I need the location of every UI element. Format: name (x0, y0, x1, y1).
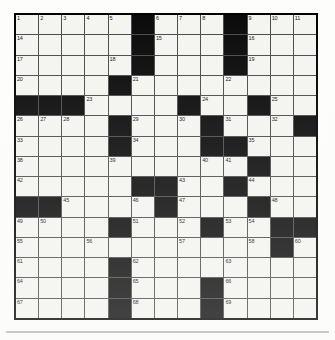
letter-square[interactable]: 24 (201, 96, 223, 115)
letter-square[interactable] (294, 278, 316, 297)
letter-square[interactable]: 19 (248, 56, 270, 75)
letter-square[interactable]: 66 (224, 278, 246, 297)
letter-square[interactable] (39, 258, 61, 277)
letter-square[interactable]: 40 (201, 157, 223, 176)
letter-square[interactable] (271, 157, 293, 176)
letter-square[interactable]: 33 (16, 137, 38, 156)
letter-square[interactable]: 18 (109, 56, 131, 75)
letter-square[interactable]: 10 (271, 15, 293, 34)
letter-square[interactable] (39, 177, 61, 196)
letter-square[interactable] (85, 137, 107, 156)
letter-square[interactable] (132, 157, 154, 176)
letter-square[interactable] (178, 35, 200, 54)
letter-square[interactable] (39, 35, 61, 54)
letter-square[interactable]: 5 (109, 15, 131, 34)
letter-square[interactable] (62, 157, 84, 176)
letter-square[interactable]: 39 (109, 157, 131, 176)
letter-square[interactable] (201, 258, 223, 277)
letter-square[interactable]: 4 (85, 15, 107, 34)
letter-square[interactable] (294, 299, 316, 318)
letter-square[interactable] (224, 197, 246, 216)
letter-square[interactable] (109, 96, 131, 115)
letter-square[interactable]: 45 (62, 197, 84, 216)
letter-square[interactable] (85, 35, 107, 54)
letter-square[interactable] (62, 76, 84, 95)
letter-square[interactable]: 6 (155, 15, 177, 34)
letter-square[interactable] (155, 137, 177, 156)
letter-square[interactable] (155, 238, 177, 257)
letter-square[interactable]: 27 (39, 116, 61, 135)
letter-square[interactable]: 69 (224, 299, 246, 318)
letter-square[interactable] (39, 299, 61, 318)
letter-square[interactable]: 22 (224, 76, 246, 95)
letter-square[interactable] (224, 238, 246, 257)
letter-square[interactable] (62, 299, 84, 318)
letter-square[interactable]: 9 (248, 15, 270, 34)
letter-square[interactable]: 44 (248, 177, 270, 196)
letter-square[interactable]: 35 (248, 137, 270, 156)
letter-square[interactable] (271, 56, 293, 75)
letter-square[interactable] (294, 157, 316, 176)
letter-square[interactable] (271, 177, 293, 196)
letter-square[interactable] (271, 278, 293, 297)
letter-square[interactable] (271, 137, 293, 156)
letter-square[interactable]: 21 (132, 76, 154, 95)
letter-square[interactable] (248, 299, 270, 318)
letter-square[interactable]: 62 (132, 258, 154, 277)
letter-square[interactable] (178, 56, 200, 75)
letter-square[interactable] (132, 96, 154, 115)
letter-square[interactable]: 46 (132, 197, 154, 216)
letter-square[interactable]: 51 (132, 218, 154, 237)
letter-square[interactable] (178, 299, 200, 318)
letter-square[interactable] (248, 258, 270, 277)
letter-square[interactable] (62, 278, 84, 297)
letter-square[interactable]: 53 (224, 218, 246, 237)
letter-square[interactable] (109, 197, 131, 216)
letter-square[interactable] (271, 76, 293, 95)
letter-square[interactable] (224, 96, 246, 115)
letter-square[interactable] (109, 35, 131, 54)
letter-square[interactable] (155, 116, 177, 135)
letter-square[interactable] (201, 76, 223, 95)
letter-square[interactable] (294, 56, 316, 75)
letter-square[interactable] (62, 238, 84, 257)
letter-square[interactable] (85, 177, 107, 196)
letter-square[interactable]: 60 (294, 238, 316, 257)
letter-square[interactable] (294, 96, 316, 115)
letter-square[interactable] (62, 56, 84, 75)
letter-square[interactable]: 17 (16, 56, 38, 75)
letter-square[interactable]: 11 (294, 15, 316, 34)
letter-square[interactable] (155, 258, 177, 277)
letter-square[interactable]: 16 (248, 35, 270, 54)
letter-square[interactable] (85, 157, 107, 176)
letter-square[interactable] (39, 238, 61, 257)
letter-square[interactable]: 67 (16, 299, 38, 318)
letter-square[interactable] (85, 218, 107, 237)
letter-square[interactable]: 1 (16, 15, 38, 34)
letter-square[interactable]: 25 (271, 96, 293, 115)
letter-square[interactable]: 65 (132, 278, 154, 297)
letter-square[interactable] (201, 238, 223, 257)
crossword-grid[interactable]: 1234567891011141516171819202122232425262… (16, 15, 316, 318)
letter-square[interactable]: 34 (132, 137, 154, 156)
letter-square[interactable] (271, 299, 293, 318)
letter-square[interactable]: 58 (248, 238, 270, 257)
letter-square[interactable] (39, 157, 61, 176)
letter-square[interactable] (201, 197, 223, 216)
letter-square[interactable] (178, 258, 200, 277)
letter-square[interactable]: 47 (178, 197, 200, 216)
letter-square[interactable]: 26 (16, 116, 38, 135)
letter-square[interactable] (155, 299, 177, 318)
letter-square[interactable] (62, 35, 84, 54)
letter-square[interactable] (155, 96, 177, 115)
letter-square[interactable]: 14 (16, 35, 38, 54)
letter-square[interactable] (85, 299, 107, 318)
letter-square[interactable] (85, 278, 107, 297)
letter-square[interactable] (294, 35, 316, 54)
letter-square[interactable] (62, 137, 84, 156)
letter-square[interactable] (62, 218, 84, 237)
letter-square[interactable]: 32 (271, 116, 293, 135)
letter-square[interactable] (155, 218, 177, 237)
letter-square[interactable] (271, 258, 293, 277)
letter-square[interactable] (62, 258, 84, 277)
